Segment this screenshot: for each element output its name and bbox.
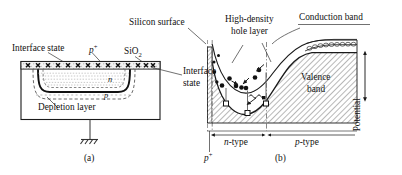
electron-motion-arrow: [232, 81, 239, 85]
electron-icon: [220, 83, 225, 88]
label-potential: Potential: [353, 98, 362, 131]
label-interface-state-right-line1: Interface: [183, 67, 216, 76]
label-sio2: SiO2: [124, 47, 142, 58]
leader-conduction-band: [272, 28, 300, 44]
electron-carriers: [220, 65, 264, 91]
p-plus-superscript: +: [94, 43, 98, 50]
label-valence-band-line1: Valence: [301, 73, 330, 82]
label-axis-n-type: n-type: [224, 138, 248, 147]
label-axis-p-plus: p+: [204, 152, 212, 163]
label-hole-layer-line2: hole layer: [231, 27, 268, 36]
hole-icon: [264, 101, 269, 106]
panel-a-cross-section: [21, 53, 182, 145]
leader-silicon-surface: [188, 28, 206, 44]
figure-container: Interface state p+ SiO2 Interface state …: [0, 0, 402, 175]
carrier-generation-lines: [226, 73, 266, 111]
hole-icon: [245, 111, 250, 116]
label-silicon-surface: Silicon surface: [129, 18, 185, 27]
valence-band-fill: [212, 53, 357, 123]
axis-n-suffix: -type: [229, 137, 248, 147]
sio2-text: SiO: [124, 46, 138, 56]
label-interface-state-right-line2: state: [183, 79, 200, 88]
leader-interface-state-left: [48, 53, 63, 62]
hole-icon: [224, 101, 229, 106]
electron-icon: [239, 85, 244, 90]
label-conduction-band: Conduction band: [299, 13, 363, 22]
label-depletion-layer: Depletion layer: [38, 103, 96, 112]
label-p-region: p: [104, 92, 108, 100]
axis-p-superscript: +: [209, 151, 213, 158]
recombination-arrow: [248, 98, 256, 104]
electron-icon: [227, 76, 232, 81]
photon-wavy-icon: [249, 95, 264, 98]
label-n-region: n: [108, 76, 112, 84]
panel-b-band-diagram: [188, 25, 370, 153]
p-plus-strip: [208, 47, 213, 123]
ground-icon: [81, 140, 99, 145]
electron-icon: [244, 86, 249, 91]
figure-svg: [0, 0, 402, 175]
axis-p-type-suffix: -type: [300, 137, 319, 147]
high-density-hole-layer-band: [304, 39, 357, 51]
caption-a: (a): [84, 154, 94, 163]
electron-motion-arrow: [243, 78, 249, 84]
label-valence-band-line2: band: [307, 85, 325, 94]
electron-icon: [253, 75, 258, 80]
label-axis-p-type: p-type: [295, 138, 319, 147]
sio2-subscript: 2: [138, 51, 141, 58]
label-interface-state-left: Interface state: [12, 44, 64, 53]
caption-b: (b): [275, 154, 286, 163]
label-p-plus-a: p+: [89, 44, 97, 55]
leader-hole-layer-a: [232, 45, 243, 63]
label-hole-layer-line1: High-density: [225, 15, 274, 24]
